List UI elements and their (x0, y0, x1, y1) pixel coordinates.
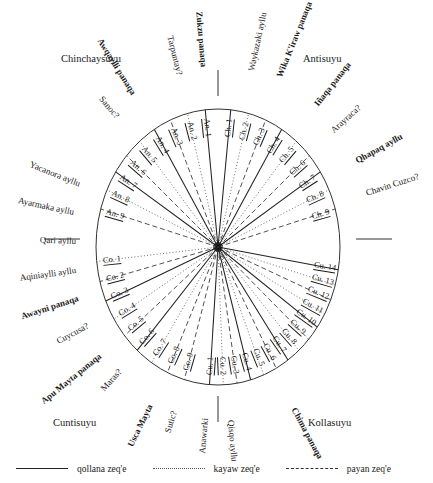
suyu-label: Chinchaysuyu (61, 53, 121, 64)
legend-item: qollana zeq'e (16, 464, 152, 474)
legend-line-kayaw-icon (153, 464, 205, 474)
zeqe-rays-group (97, 110, 339, 385)
legend-label: kayaw zeq'e (205, 464, 286, 474)
legend-line-payan-icon (286, 464, 338, 474)
legend-row: qollana zeq'ekayaw zeq'epayan zeq'e (0, 455, 433, 483)
legend-label: qollana zeq'e (68, 464, 152, 474)
ayllu-label: Qari ayllu (39, 235, 76, 246)
suyu-label: Kollasuyu (308, 417, 351, 428)
legend: qollana zeq'ekayaw zeq'epayan zeq'e (0, 455, 433, 483)
legend-line-qollana-icon (16, 464, 68, 474)
legend-item: payan zeq'e (286, 464, 417, 474)
ray-label: Cu. 1 (205, 357, 216, 376)
ray-label: Co. 1 (102, 254, 121, 266)
suyu-label: Antisuyu (303, 53, 342, 64)
legend-label: payan zeq'e (338, 464, 417, 474)
zeqe-diagram: Ch. 1Ch. 2Ch. 3Ch. 4Ch. 5Ch. 6Ch. 7Ch. 8… (0, 0, 433, 483)
ray-label: An. 1 (201, 118, 213, 138)
legend-item: kayaw zeq'e (153, 464, 286, 474)
ray-label: Cu. 2 (217, 357, 228, 376)
suyu-label: Cuntisuyu (53, 417, 96, 428)
